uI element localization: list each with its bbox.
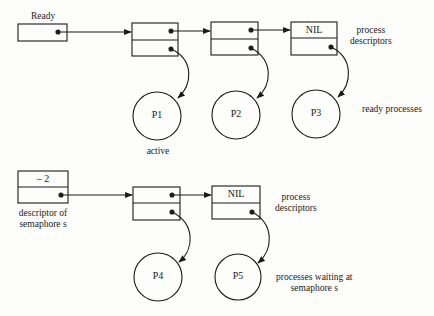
ready-processes-label: ready processes <box>362 104 422 115</box>
descriptor-3-nil: NIL <box>291 24 337 35</box>
process-p4-label: P4 <box>134 270 182 281</box>
process-p5-label: P5 <box>214 270 262 281</box>
process-p1-label: P1 <box>133 109 181 120</box>
process-descriptors-label-2: process descriptors <box>275 192 317 214</box>
active-label: active <box>134 146 182 157</box>
diagram-canvas <box>0 0 434 316</box>
process-p2-label: P2 <box>212 108 260 119</box>
waiting-processes-label: processes waiting at semaphore s <box>276 272 353 294</box>
desc5-to-p5-arrow <box>252 212 269 263</box>
semaphore-descriptor-label: descriptor of semaphore s <box>14 208 72 230</box>
descriptor-5-nil: NIL <box>212 188 260 199</box>
ready-label: Ready <box>31 11 55 22</box>
process-descriptors-label-1: process descriptors <box>350 25 392 47</box>
semaphore-value: – 2 <box>18 173 68 184</box>
process-p3-label: P3 <box>292 107 340 118</box>
